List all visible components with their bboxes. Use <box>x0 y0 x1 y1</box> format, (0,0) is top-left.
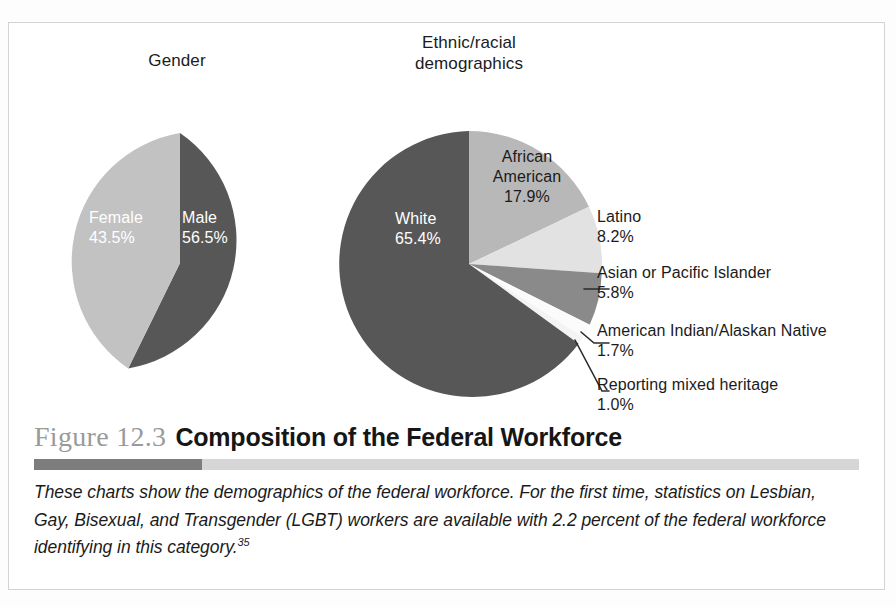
slice-label-white-name: White <box>395 210 436 227</box>
slice-label-american-indian-alaskan-native-pct: 1.7% <box>597 341 827 361</box>
slice-label-african-american-pct: 17.9% <box>479 187 575 207</box>
slice-label-reporting-mixed-heritage: Reporting mixed heritage 1.0% <box>597 375 778 415</box>
ethnic-chart-title-line1: Ethnic/racial <box>349 33 589 54</box>
figure-frame: Gender Ethnic/racial demographics Male 5… <box>8 22 885 590</box>
slice-label-male-pct: 56.5% <box>182 228 228 248</box>
gender-chart-title: Gender <box>57 51 297 72</box>
slice-label-white: White 65.4% <box>395 209 441 249</box>
slice-label-american-indian-alaskan-native: American Indian/Alaskan Native 1.7% <box>597 321 827 361</box>
figure-caption: These charts show the demographics of th… <box>34 479 834 562</box>
rule-bar-dark-segment <box>34 459 202 470</box>
slice-label-african-american: African American 17.9% <box>479 147 575 206</box>
slice-label-african-american-line1: African <box>502 148 553 165</box>
slice-label-american-indian-alaskan-native-name: American Indian/Alaskan Native <box>597 322 827 339</box>
rule-bar <box>34 459 859 470</box>
slice-label-latino-pct: 8.2% <box>597 227 641 247</box>
figure-caption-footnote-marker: 35 <box>237 536 249 548</box>
ethnic-chart-title-line2: demographics <box>349 54 589 75</box>
caption-block: Figure 12.3 Composition of the Federal W… <box>34 421 862 562</box>
slice-label-female-pct: 43.5% <box>89 228 143 248</box>
slice-label-reporting-mixed-heritage-name: Reporting mixed heritage <box>597 376 778 393</box>
slice-label-white-pct: 65.4% <box>395 229 441 249</box>
slice-label-asian-pacific-islander: Asian or Pacific Islander 5.8% <box>597 263 771 303</box>
figure-caption-body: These charts show the demographics of th… <box>34 482 826 557</box>
ethnic-chart-title: Ethnic/racial demographics <box>349 33 589 74</box>
slice-label-asian-pacific-islander-pct: 5.8% <box>597 283 771 303</box>
slice-label-male-name: Male <box>182 209 217 226</box>
slice-label-asian-pacific-islander-name: Asian or Pacific Islander <box>597 264 771 281</box>
slice-label-african-american-line2: American <box>479 167 575 187</box>
slice-label-female: Female 43.5% <box>89 208 143 248</box>
figure-title: Composition of the Federal Workforce <box>175 423 622 452</box>
slice-label-male: Male 56.5% <box>182 208 228 248</box>
slice-label-female-name: Female <box>89 209 143 226</box>
charts-area: Gender Ethnic/racial demographics Male 5… <box>9 23 884 408</box>
rule-bar-light-segment <box>202 459 859 470</box>
gender-pie <box>72 133 237 368</box>
figure-number: Figure 12.3 <box>34 421 166 453</box>
slice-label-reporting-mixed-heritage-pct: 1.0% <box>597 395 778 415</box>
slice-label-latino-name: Latino <box>597 208 641 225</box>
slice-label-latino: Latino 8.2% <box>597 207 641 247</box>
figure-heading: Figure 12.3 Composition of the Federal W… <box>34 421 862 453</box>
